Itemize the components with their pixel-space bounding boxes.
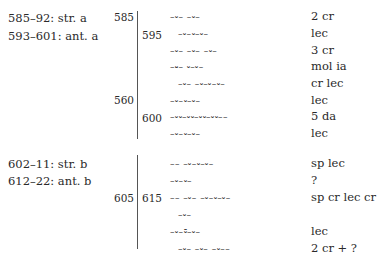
scansion-line: –⏑– –⏑–⏑–⏑– (178, 77, 225, 91)
line-number-antistrophe: 595 (142, 28, 162, 42)
line-number-antistrophe: 600 (142, 111, 162, 125)
meter-label: lec (311, 126, 328, 140)
section-b-antistrophe-label: 612–22: ant. b (8, 174, 91, 188)
scansion-line: –– –⏑–⏑–⏑– (170, 157, 214, 171)
scansion-line: –⏑– –⏑– (170, 10, 200, 24)
meter-label: 2 cr + ? (311, 241, 357, 255)
meter-label: 3 cr (311, 43, 334, 57)
scansion-line: –⏑– (178, 208, 192, 222)
meter-label: lec (311, 224, 328, 238)
scansion-line: –⏑–⏑– (170, 174, 192, 188)
meter-label: ? (311, 173, 317, 187)
section-b-divider (137, 155, 138, 249)
scansion-line: –⏓– ⏑–⏑– (170, 60, 204, 74)
scansion-line: –⏑– –⏑– –⏑– (170, 44, 217, 58)
meter-label: 2 cr (311, 9, 334, 23)
meter-label: 5 da (311, 109, 336, 123)
scansion-line: –⏑–⏑–⏑– (178, 27, 209, 41)
line-number-strophe: 605 (108, 191, 134, 205)
meter-label: lec (311, 93, 328, 107)
scansion-line: –– –⏑– –⏑–⏑–⏑– (170, 191, 231, 205)
section-b-strophe-label: 602–11: str. b (8, 157, 87, 171)
scansion-line: –⏑–⏑–⏑– (170, 127, 201, 141)
scansion-line: –⏑– –⏑– –⏑–– (178, 242, 230, 256)
scansion-line: –⏑⏑–⏑⏑–⏑⏑–⏑⏑–– (170, 110, 228, 124)
section-a-antistrophe-label: 593–601: ant. a (8, 29, 98, 43)
line-number-strophe: 560 (108, 93, 134, 107)
line-number-antistrophe: 615 (142, 191, 162, 205)
section-a-strophe-label: 585–92: str. a (8, 11, 87, 25)
line-number-strophe: 585 (108, 10, 134, 24)
meter-label: sp lec (311, 156, 345, 170)
meter-label: sp cr lec cr (311, 190, 376, 204)
scansion-line: –⏑–⏒–⏑– (170, 225, 201, 239)
meter-label: lec (311, 26, 328, 40)
meter-label: cr lec (311, 76, 344, 90)
meter-label: mol ia (311, 59, 347, 73)
section-a-divider (137, 11, 138, 139)
scansion-line: –⏑–⏑–⏑– (170, 94, 201, 108)
